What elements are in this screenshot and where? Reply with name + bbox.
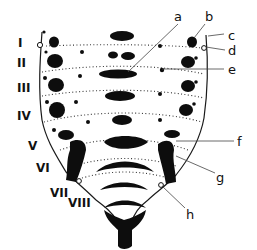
segment-label-i: I bbox=[18, 36, 22, 50]
part-label-c: c bbox=[228, 28, 235, 43]
part-label-b: b bbox=[205, 9, 213, 24]
lateral-blots-left bbox=[42, 30, 90, 182]
segment-label-viii: VIII bbox=[68, 196, 91, 210]
abdomen-diagram: I II III IV V VI VII VIII a b c d e f g … bbox=[0, 0, 257, 250]
part-label-d: d bbox=[228, 43, 236, 58]
part-label-h: h bbox=[186, 207, 194, 222]
part-label-e: e bbox=[228, 62, 236, 77]
part-label-g: g bbox=[216, 170, 224, 185]
terminal-segment bbox=[104, 210, 146, 249]
segment-label-ii: II bbox=[17, 56, 26, 70]
lateral-blots-right bbox=[158, 37, 198, 185]
segment-label-iv: IV bbox=[17, 109, 31, 123]
part-label-f: f bbox=[237, 134, 242, 149]
segment-label-vii: VII bbox=[50, 186, 68, 200]
segment-label-vi: VI bbox=[36, 161, 50, 175]
median-bars bbox=[96, 31, 154, 208]
segment-label-v: V bbox=[28, 139, 38, 153]
part-label-a: a bbox=[174, 9, 182, 24]
segment-label-iii: III bbox=[17, 81, 30, 95]
